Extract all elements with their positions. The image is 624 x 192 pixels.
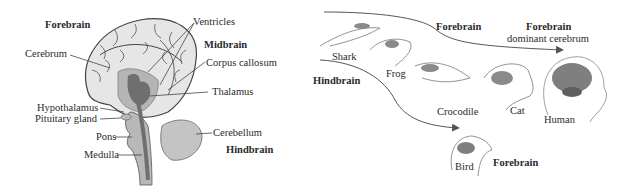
label-hindbrain-right: Hindbrain — [313, 76, 360, 87]
label-midbrain: Midbrain — [204, 40, 247, 51]
label-ventricles: Ventricles — [193, 17, 235, 28]
label-dominant-cerebrum: dominant cerebrum — [507, 34, 589, 45]
label-forebrain-bird: Forebrain — [493, 158, 538, 169]
label-forebrain-human: Forebrain — [526, 22, 571, 33]
pituitary-shape — [121, 114, 131, 120]
label-shark: Shark — [332, 52, 357, 63]
label-cerebrum: Cerebrum — [25, 49, 67, 60]
label-bird: Bird — [455, 162, 474, 173]
label-cerebellum: Cerebellum — [213, 128, 262, 139]
label-hindbrain: Hindbrain — [226, 145, 273, 156]
human-head — [544, 57, 607, 122]
label-forebrain-top: Forebrain — [436, 22, 481, 33]
shark-head — [320, 23, 380, 46]
brain-anatomy-panel: Forebrain Ventricles Midbrain Cerebrum C… — [0, 0, 300, 192]
label-medulla: Medulla — [84, 150, 119, 161]
label-thalamus: Thalamus — [212, 87, 253, 98]
label-hypothalamus: Hypothalamus — [37, 103, 98, 114]
label-crocodile: Crocodile — [437, 107, 478, 118]
label-cat: Cat — [510, 106, 525, 117]
cat-head — [484, 64, 533, 110]
label-frog: Frog — [386, 69, 406, 80]
crocodile-head — [415, 63, 470, 82]
label-pons: Pons — [96, 132, 116, 143]
frog-head — [370, 39, 411, 66]
label-forebrain: Forebrain — [45, 20, 90, 31]
label-pituitary-gland: Pituitary gland — [35, 114, 97, 125]
label-corpus-callosum: Corpus callosum — [206, 58, 277, 69]
cerebellum-shape — [161, 120, 202, 160]
brain-evolution-panel: Shark Hindbrain Frog Forebrain Forebrain… — [300, 0, 624, 192]
label-human: Human — [544, 115, 575, 126]
